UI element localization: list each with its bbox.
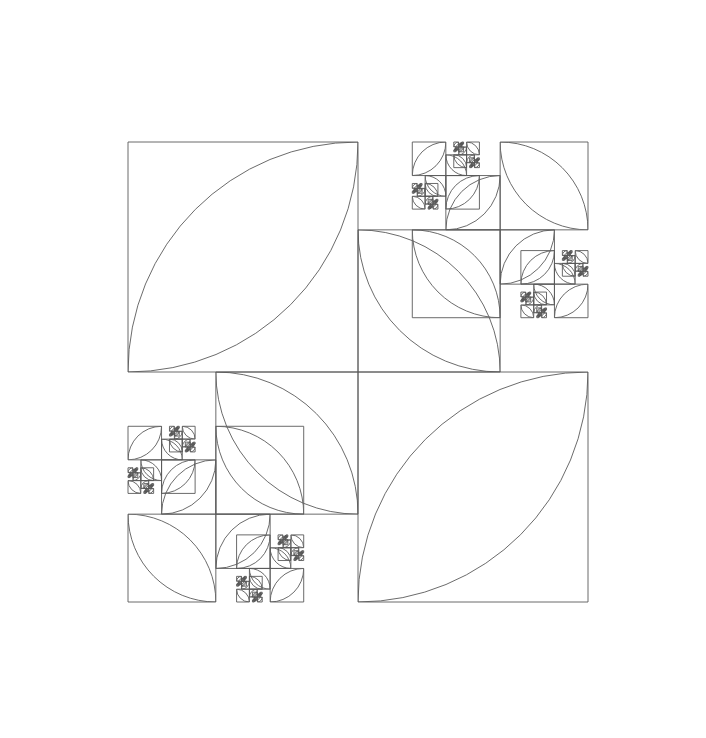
fractal-drawing-canvas — [0, 0, 706, 738]
figure-root — [0, 0, 706, 738]
